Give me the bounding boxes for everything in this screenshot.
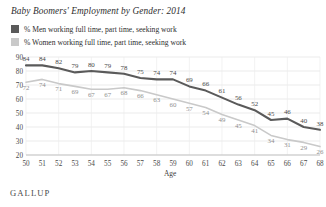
x-axis-tick-label: 68 bbox=[316, 160, 324, 168]
x-axis-tick-label: 65 bbox=[267, 160, 275, 168]
data-label-women: 49 bbox=[219, 116, 226, 123]
x-axis-tick-label: 54 bbox=[88, 160, 96, 168]
x-axis-tick-label: 67 bbox=[300, 160, 308, 168]
y-axis-tick-label: 60 bbox=[16, 96, 24, 104]
data-label-men: 79 bbox=[104, 62, 111, 69]
data-label-men: 75 bbox=[137, 68, 144, 75]
data-label-men: 82 bbox=[55, 58, 62, 65]
data-label-women: 67 bbox=[104, 91, 111, 98]
data-label-women: 41 bbox=[251, 127, 258, 134]
data-label-men: 74 bbox=[170, 69, 177, 76]
x-axis-tick-label: 66 bbox=[284, 160, 292, 168]
data-label-women: 69 bbox=[72, 88, 79, 95]
x-axis-tick-label: 57 bbox=[137, 160, 145, 168]
data-label-men: 84 bbox=[39, 55, 46, 62]
y-axis-tick-label: 40 bbox=[16, 124, 24, 132]
data-label-men: 52 bbox=[251, 100, 258, 107]
x-axis-tick-label: 58 bbox=[153, 160, 161, 168]
plot-area: 9080706050403020505152535455565758596061… bbox=[0, 0, 326, 207]
data-label-women: 31 bbox=[284, 141, 291, 148]
data-label-men: 45 bbox=[268, 110, 275, 117]
gallup-logo: GALLUP bbox=[10, 188, 51, 198]
y-axis-tick-label: 80 bbox=[16, 68, 24, 76]
plot-svg: 9080706050403020505152535455565758596061… bbox=[0, 0, 326, 207]
data-label-women: 57 bbox=[186, 105, 193, 112]
data-label-women: 66 bbox=[137, 92, 144, 99]
y-axis-tick-label: 20 bbox=[16, 152, 24, 160]
data-label-women: 45 bbox=[235, 122, 242, 129]
data-label-women: 71 bbox=[55, 85, 62, 92]
x-axis-tick-label: 55 bbox=[104, 160, 112, 168]
data-label-men: 80 bbox=[88, 61, 95, 68]
data-label-men: 74 bbox=[153, 69, 160, 76]
data-label-women: 34 bbox=[268, 137, 275, 144]
x-axis-tick-label: 51 bbox=[39, 160, 47, 168]
data-label-women: 74 bbox=[39, 81, 46, 88]
gallup-line-chart: Baby Boomers' Employment by Gender: 2014… bbox=[0, 0, 326, 207]
data-label-men: 79 bbox=[72, 62, 79, 69]
data-label-men: 56 bbox=[235, 94, 242, 101]
x-axis-tick-label: 50 bbox=[22, 160, 30, 168]
x-axis-tick-label: 56 bbox=[120, 160, 128, 168]
x-axis-tick-label: 53 bbox=[71, 160, 79, 168]
x-axis-tick-label: 60 bbox=[186, 160, 194, 168]
data-label-women: 67 bbox=[88, 91, 95, 98]
data-label-women: 54 bbox=[202, 109, 209, 116]
data-label-men: 78 bbox=[121, 64, 128, 71]
data-label-men: 66 bbox=[202, 80, 209, 87]
data-label-men: 40 bbox=[300, 117, 307, 124]
y-axis-tick-label: 30 bbox=[16, 138, 24, 146]
data-label-men: 69 bbox=[186, 76, 193, 83]
data-label-women: 60 bbox=[170, 101, 177, 108]
x-axis-tick-label: 61 bbox=[202, 160, 210, 168]
data-label-men: 46 bbox=[284, 108, 291, 115]
data-label-men: 61 bbox=[219, 87, 226, 94]
y-axis-tick-label: 50 bbox=[16, 110, 24, 118]
data-label-women: 68 bbox=[121, 89, 128, 96]
x-axis-tick-label: 63 bbox=[235, 160, 243, 168]
x-axis-tick-label: 59 bbox=[169, 160, 177, 168]
data-label-women: 72 bbox=[23, 84, 30, 91]
x-axis-tick-label: 62 bbox=[218, 160, 226, 168]
data-label-women: 29 bbox=[300, 144, 307, 151]
x-axis-tick-label: 64 bbox=[251, 160, 259, 168]
x-axis-tick-label: 52 bbox=[55, 160, 63, 168]
data-label-women: 26 bbox=[317, 148, 324, 155]
data-label-men: 84 bbox=[23, 55, 30, 62]
x-axis-title: Age bbox=[164, 169, 176, 178]
data-label-men: 38 bbox=[317, 120, 324, 127]
data-label-women: 63 bbox=[153, 96, 160, 103]
